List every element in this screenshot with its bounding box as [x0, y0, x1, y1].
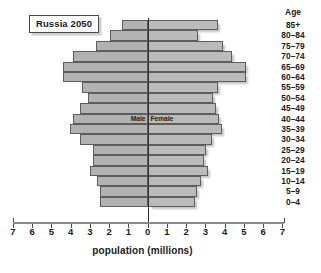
population-pyramid-chart: Russia 2050 Male Female 765432101234567 …: [0, 0, 321, 273]
x-axis-tick-label: 7: [5, 226, 21, 237]
bar-female-35-39: [148, 124, 222, 134]
bar-male-15-19: [90, 166, 148, 176]
bar-male-5-9: [100, 186, 147, 196]
x-axis-tick-label: 0: [140, 226, 156, 237]
x-axis-tick-label: 4: [217, 226, 233, 237]
bar-female-15-19: [148, 166, 209, 176]
bar-female-20-24: [148, 155, 205, 165]
age-axis-label-65-69: 65–69: [270, 62, 316, 72]
age-axis-label-45-49: 45–49: [270, 103, 316, 113]
x-axis-tick-label: 1: [159, 226, 175, 237]
age-axis-label-50-54: 50–54: [270, 93, 316, 103]
bar-male-75-79: [96, 41, 148, 51]
page-title: Russia 2050: [36, 18, 92, 29]
age-axis-label-15-19: 15–19: [270, 166, 316, 176]
gender-legend: Male Female: [0, 113, 321, 124]
bar-male-0-4: [100, 197, 147, 207]
bar-female-60-64: [148, 72, 246, 82]
age-axis-label-75-79: 75–79: [270, 41, 316, 51]
bar-female-65-69: [148, 62, 246, 72]
bar-female-0-4: [148, 197, 195, 207]
x-axis-line: [13, 222, 284, 224]
bar-female-85+: [148, 20, 218, 30]
age-axis-label-30-34: 30–34: [270, 134, 316, 144]
age-axis-label-85+: 85+: [270, 20, 316, 30]
age-axis-label-25-29: 25–29: [270, 145, 316, 155]
bar-male-65-69: [63, 62, 148, 72]
x-axis-tick-label: 4: [63, 226, 79, 237]
age-axis-label-35-39: 35–39: [270, 124, 316, 134]
bar-male-70-74: [73, 51, 147, 61]
bar-female-75-79: [148, 41, 223, 51]
x-axis-right-cap: [284, 218, 285, 223]
legend-label-female: Female: [151, 113, 174, 124]
age-axis-label-20-24: 20–24: [270, 155, 316, 165]
x-axis-tick-label: 2: [101, 226, 117, 237]
x-axis-tick-label: 6: [24, 226, 40, 237]
bar-male-35-39: [70, 124, 148, 134]
bar-male-20-24: [93, 155, 148, 165]
bar-female-80-84: [148, 30, 198, 40]
x-axis-tick-label: 3: [82, 226, 98, 237]
x-axis-tick-label: 7: [274, 226, 290, 237]
bar-male-10-14: [97, 176, 148, 186]
x-axis-tick-label: 3: [197, 226, 213, 237]
x-axis-tick-label: 6: [255, 226, 271, 237]
bar-male-85+: [122, 20, 148, 30]
bar-female-55-59: [148, 82, 218, 92]
age-axis-label-70-74: 70–74: [270, 51, 316, 61]
chart-title-box: Russia 2050: [29, 15, 99, 33]
bar-female-5-9: [148, 186, 197, 196]
bar-male-30-34: [80, 134, 147, 144]
age-axis-title: Age: [270, 7, 316, 17]
age-axis-label-80-84: 80–84: [270, 30, 316, 40]
x-axis-tick-label: 2: [178, 226, 194, 237]
age-axis-label-10-14: 10–14: [270, 176, 316, 186]
bar-male-55-59: [82, 82, 147, 92]
bar-male-80-84: [110, 30, 148, 40]
bar-female-70-74: [148, 51, 233, 61]
age-axis-label-5-9: 5–9: [270, 186, 316, 196]
x-axis-tick-label: 5: [43, 226, 59, 237]
x-axis-tick-label: 5: [236, 226, 252, 237]
bar-male-25-29: [93, 145, 148, 155]
age-axis-label-55-59: 55–59: [270, 82, 316, 92]
bar-female-30-34: [148, 134, 212, 144]
legend-label-male: Male: [131, 113, 146, 124]
bar-female-25-29: [148, 145, 207, 155]
x-axis-tick-label: 1: [120, 226, 136, 237]
bar-male-50-54: [88, 93, 148, 103]
age-axis-label-0-4: 0–4: [270, 197, 316, 207]
bar-female-50-54: [148, 93, 213, 103]
age-axis-label-60-64: 60–64: [270, 72, 316, 82]
bar-male-60-64: [63, 72, 148, 82]
x-axis-title: population (millions): [0, 245, 285, 256]
bar-female-10-14: [148, 176, 202, 186]
